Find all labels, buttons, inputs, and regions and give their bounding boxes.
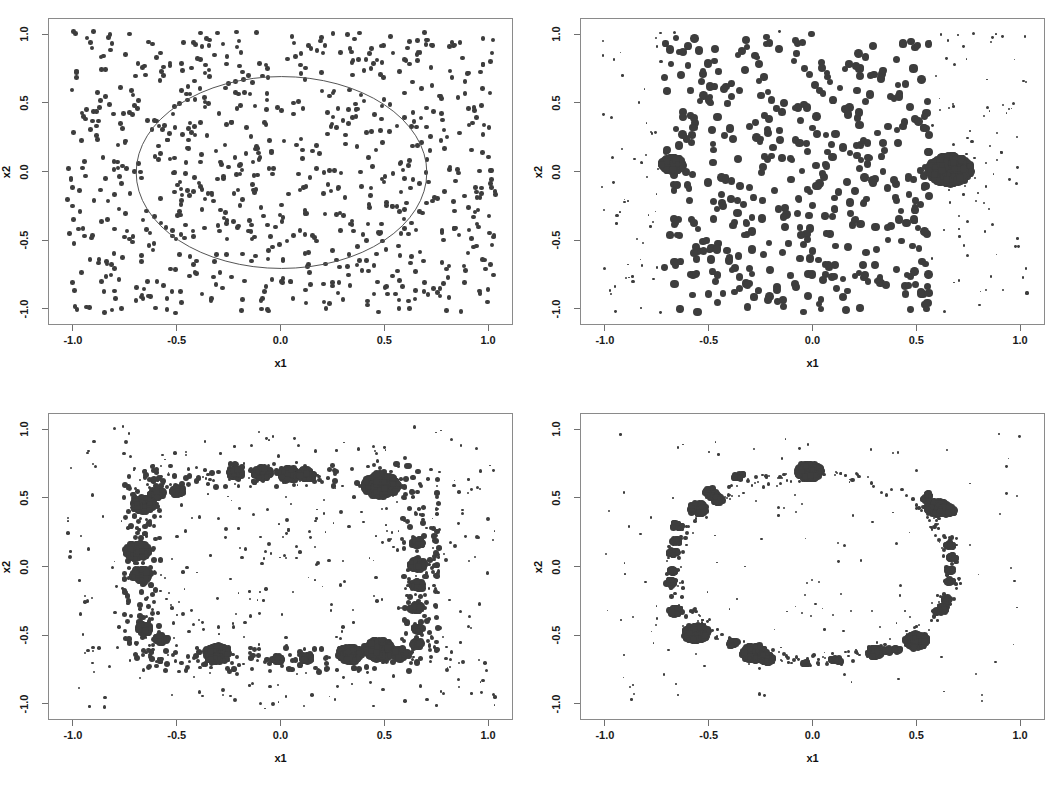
x-tick-4-1 xyxy=(708,720,709,726)
y-tick-2-2 xyxy=(574,171,580,172)
x-tick-label-3-4: 1.0 xyxy=(480,729,495,741)
x-tick-4-2 xyxy=(812,720,813,726)
y-tick-label-3-0: -1.0 xyxy=(16,688,32,720)
y-tick-2-1 xyxy=(574,240,580,241)
x-tick-label-4-2: 0.0 xyxy=(805,729,820,741)
plot-frame-4 xyxy=(580,413,1045,720)
x-tick-3-2 xyxy=(280,720,281,726)
y-tick-4-1 xyxy=(574,635,580,636)
y-tick-label-2-4: 1.0 xyxy=(548,18,564,50)
x-tick-3-0 xyxy=(72,720,73,726)
plot-frame-2 xyxy=(580,18,1045,325)
x-axis-title-1: x1 xyxy=(274,357,286,369)
x-tick-label-2-1: -0.5 xyxy=(699,334,718,346)
figure-canvas: -1.0-0.50.00.51.0-1.0-0.50.00.51.0x1x2-1… xyxy=(0,0,1061,795)
x-tick-label-3-1: -0.5 xyxy=(167,729,186,741)
x-tick-label-2-2: 0.0 xyxy=(805,334,820,346)
x-tick-2-4 xyxy=(1020,325,1021,331)
y-tick-4-2 xyxy=(574,566,580,567)
y-tick-1-3 xyxy=(42,102,48,103)
x-tick-3-3 xyxy=(384,720,385,726)
points-layer-3 xyxy=(49,414,512,719)
scatter-panel-3: -1.0-0.50.00.51.0-1.0-0.50.00.51.0x1x2 xyxy=(0,0,1061,795)
y-tick-label-1-0: -1.0 xyxy=(16,293,32,325)
x-tick-label-1-2: 0.0 xyxy=(273,334,288,346)
y-tick-label-4-1: -0.5 xyxy=(548,619,564,651)
y-tick-1-1 xyxy=(42,240,48,241)
x-tick-1-4 xyxy=(488,325,489,331)
y-tick-2-4 xyxy=(574,34,580,35)
y-tick-3-3 xyxy=(42,497,48,498)
x-tick-label-1-1: -0.5 xyxy=(167,334,186,346)
y-tick-3-0 xyxy=(42,703,48,704)
x-tick-label-4-3: 0.5 xyxy=(909,729,924,741)
y-axis-title-4: x2 xyxy=(530,547,546,587)
y-tick-label-2-3: 0.5 xyxy=(548,87,564,119)
y-tick-2-0 xyxy=(574,308,580,309)
x-tick-label-2-3: 0.5 xyxy=(909,334,924,346)
y-tick-label-3-4: 1.0 xyxy=(16,413,32,445)
y-tick-1-0 xyxy=(42,308,48,309)
y-tick-label-3-1: -0.5 xyxy=(16,619,32,651)
x-tick-label-1-0: -1.0 xyxy=(63,334,82,346)
points-layer-4 xyxy=(581,414,1044,719)
y-tick-label-1-1: -0.5 xyxy=(16,224,32,256)
x-tick-label-1-4: 1.0 xyxy=(480,334,495,346)
x-tick-3-1 xyxy=(176,720,177,726)
points-layer-2 xyxy=(581,19,1044,324)
y-tick-1-4 xyxy=(42,34,48,35)
y-tick-label-4-3: 0.5 xyxy=(548,482,564,514)
x-tick-label-2-0: -1.0 xyxy=(595,334,614,346)
decision-boundary-ellipse xyxy=(49,19,514,326)
y-tick-label-4-4: 1.0 xyxy=(548,413,564,445)
y-axis-title-2: x2 xyxy=(530,152,546,192)
y-tick-2-3 xyxy=(574,102,580,103)
x-tick-1-0 xyxy=(72,325,73,331)
y-tick-label-1-4: 1.0 xyxy=(16,18,32,50)
x-tick-2-3 xyxy=(916,325,917,331)
y-tick-3-1 xyxy=(42,635,48,636)
x-tick-label-3-2: 0.0 xyxy=(273,729,288,741)
x-axis-title-4: x1 xyxy=(806,752,818,764)
y-tick-1-2 xyxy=(42,171,48,172)
scatter-panel-4: -1.0-0.50.00.51.0-1.0-0.50.00.51.0x1x2 xyxy=(0,0,1061,795)
x-tick-label-4-0: -1.0 xyxy=(595,729,614,741)
x-axis-title-2: x1 xyxy=(806,357,818,369)
scatter-panel-1: -1.0-0.50.00.51.0-1.0-0.50.00.51.0x1x2 xyxy=(0,0,1061,795)
y-axis-title-3: x2 xyxy=(0,547,14,587)
y-tick-4-3 xyxy=(574,497,580,498)
scatter-panel-2: -1.0-0.50.00.51.0-1.0-0.50.00.51.0x1x2 xyxy=(0,0,1061,795)
x-tick-label-2-4: 1.0 xyxy=(1012,334,1027,346)
x-tick-4-3 xyxy=(916,720,917,726)
x-axis-title-3: x1 xyxy=(274,752,286,764)
y-tick-label-1-3: 0.5 xyxy=(16,87,32,119)
y-tick-4-0 xyxy=(574,703,580,704)
y-tick-4-4 xyxy=(574,429,580,430)
plot-frame-3 xyxy=(48,413,513,720)
x-tick-label-4-4: 1.0 xyxy=(1012,729,1027,741)
y-tick-3-4 xyxy=(42,429,48,430)
x-tick-3-4 xyxy=(488,720,489,726)
x-tick-1-1 xyxy=(176,325,177,331)
x-tick-4-4 xyxy=(1020,720,1021,726)
y-tick-label-4-0: -1.0 xyxy=(548,688,564,720)
x-tick-2-1 xyxy=(708,325,709,331)
y-tick-3-2 xyxy=(42,566,48,567)
x-tick-1-2 xyxy=(280,325,281,331)
y-tick-label-2-1: -0.5 xyxy=(548,224,564,256)
x-tick-2-0 xyxy=(604,325,605,331)
points-layer-1 xyxy=(49,19,512,324)
x-tick-4-0 xyxy=(604,720,605,726)
y-tick-label-1-2: 0.0 xyxy=(16,156,32,188)
x-tick-label-3-3: 0.5 xyxy=(377,729,392,741)
y-tick-label-2-0: -1.0 xyxy=(548,293,564,325)
y-tick-label-3-2: 0.0 xyxy=(16,551,32,583)
y-tick-label-4-2: 0.0 xyxy=(548,551,564,583)
x-tick-label-3-0: -1.0 xyxy=(63,729,82,741)
y-axis-title-1: x2 xyxy=(0,152,14,192)
plot-frame-1 xyxy=(48,18,513,325)
x-tick-label-4-1: -0.5 xyxy=(699,729,718,741)
y-tick-label-3-3: 0.5 xyxy=(16,482,32,514)
y-tick-label-2-2: 0.0 xyxy=(548,156,564,188)
x-tick-2-2 xyxy=(812,325,813,331)
